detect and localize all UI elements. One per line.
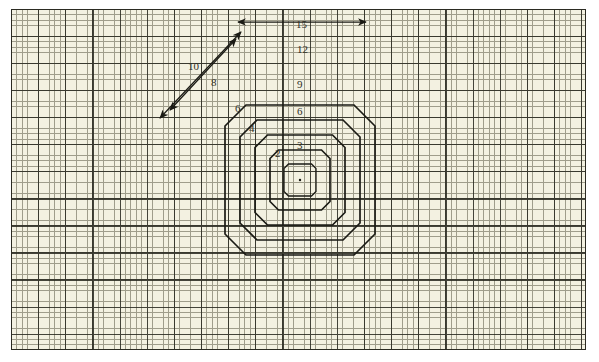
center-point [299, 179, 301, 181]
label-width-15: 15 [296, 19, 307, 30]
graph-paper-figure: 1512963108642 [0, 0, 599, 362]
label-diagonal-8: 8 [211, 77, 217, 88]
dimension-arrow-diagonal-10 [160, 32, 241, 118]
label-diagonal-10: 10 [188, 61, 199, 72]
label-width-3: 3 [297, 140, 303, 151]
label-width-9: 9 [297, 79, 303, 90]
label-diagonal-4: 4 [249, 123, 255, 134]
label-diagonal-6: 6 [235, 103, 241, 114]
label-diagonal-2: 2 [275, 148, 281, 159]
dimension-arrow-diagonal-8 [170, 39, 236, 110]
label-width-6: 6 [297, 106, 303, 117]
label-width-12: 12 [297, 44, 308, 55]
